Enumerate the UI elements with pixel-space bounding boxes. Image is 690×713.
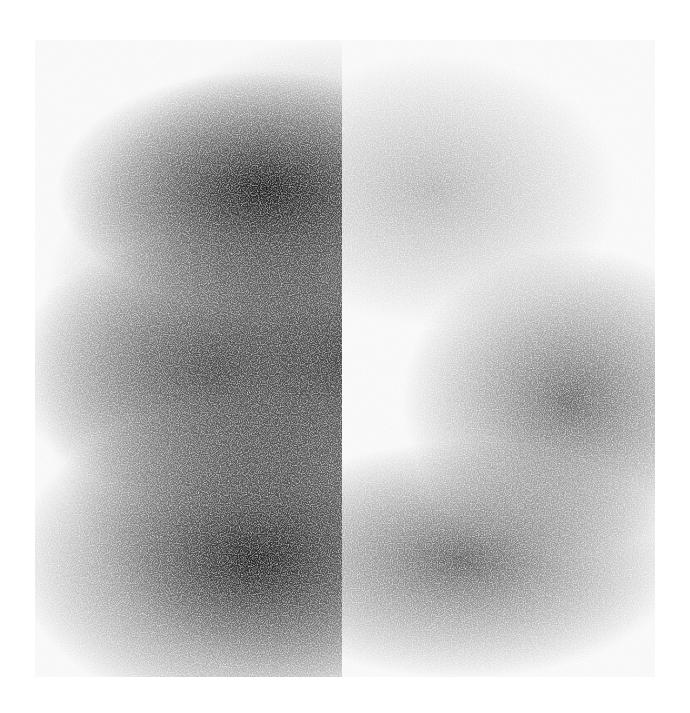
artwork-left-half <box>35 40 342 677</box>
right-spray-texture <box>342 40 655 677</box>
artwork-right-half <box>342 40 655 677</box>
left-spray-texture <box>35 40 342 677</box>
artwork-canvas <box>35 40 655 677</box>
